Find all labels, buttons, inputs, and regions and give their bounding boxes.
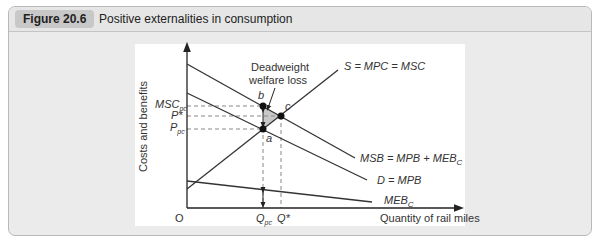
y-tick-p-star: P* <box>171 109 183 121</box>
origin-label: O <box>175 212 184 224</box>
point-b <box>260 103 267 110</box>
msb-label: MSB = MPB + MEBC <box>360 152 463 167</box>
point-c-label: c <box>285 100 291 112</box>
x-axis-label: Quantity of rail miles <box>380 212 480 224</box>
economics-diagram: b c a Deadweight welfare loss S = MPC = … <box>0 0 597 244</box>
x-tick-q-pc: Qpc <box>256 212 272 227</box>
point-a-label: a <box>266 132 272 144</box>
point-c <box>278 113 285 120</box>
y-tick-p-pc: Ppc <box>170 121 185 136</box>
meb-label: MEBC <box>384 194 414 209</box>
deadweight-label-line2: welfare loss <box>248 74 308 86</box>
x-tick-q-star: Q* <box>277 212 291 224</box>
meb-curve <box>187 181 372 202</box>
deadweight-label-line1: Deadweight <box>251 61 309 73</box>
point-b-label: b <box>258 89 264 101</box>
annotation-pointer <box>268 88 275 108</box>
y-axis-label: Costs and benefits <box>137 80 149 172</box>
demand-label: D = MPB <box>377 174 421 186</box>
supply-label: S = MPC = MSC <box>344 60 425 72</box>
